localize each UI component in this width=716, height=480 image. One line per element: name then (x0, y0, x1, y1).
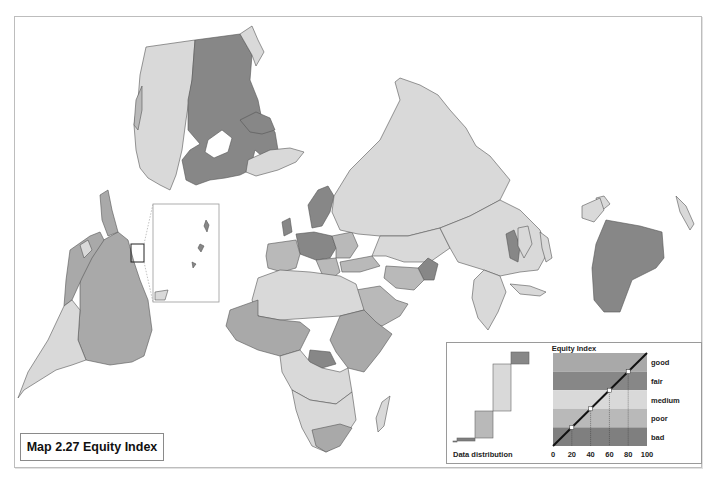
legend-band-label-poor: poor (651, 414, 668, 423)
distribution-bar-poor (475, 411, 493, 438)
distribution-bar-none (453, 441, 457, 442)
axis-tick-80: 80 (624, 450, 632, 459)
map-title-box: Map 2.27 Equity Index (20, 433, 164, 461)
region-indonesia[interactable] (510, 284, 546, 296)
legend-band-label-bad: bad (651, 433, 665, 442)
distribution-bar-fair (511, 352, 529, 364)
south-america (18, 190, 152, 398)
legend-band-fair (553, 372, 647, 391)
axis-tick-40: 40 (586, 450, 594, 459)
axis-tick-60: 60 (605, 450, 613, 459)
region-uk[interactable] (282, 218, 292, 236)
legend-band-label-good: good (651, 358, 670, 367)
axis-tick-0: 0 (551, 450, 555, 459)
region-australia[interactable] (592, 220, 664, 312)
legend-panel: Equity Index goodfairmediumpoorbad020406… (446, 342, 702, 464)
axis-tick-100: 100 (641, 450, 654, 459)
distribution-label: Data distribution (453, 450, 513, 459)
distribution-bar-bad (457, 438, 475, 441)
axis-tick-20: 20 (568, 450, 576, 459)
region-turkey[interactable] (340, 256, 380, 272)
region-argentina[interactable] (18, 300, 86, 398)
distribution-bar-medium (493, 364, 511, 411)
legend-band-poor (553, 409, 647, 428)
legend-band-bad (553, 427, 647, 446)
break-marker-80 (626, 370, 630, 374)
legend-graphic: goodfairmediumpoorbad020406080100 (447, 343, 701, 463)
legend-band-label-medium: medium (651, 396, 680, 405)
region-madagascar[interactable] (376, 396, 390, 432)
asia (332, 78, 610, 330)
region-western-europe[interactable] (296, 232, 336, 260)
map-title: Map 2.27 Equity Index (27, 440, 158, 454)
region-france-iberia[interactable] (266, 240, 300, 272)
legend-band-good (553, 353, 647, 372)
region-north-africa[interactable] (252, 270, 364, 320)
region-scandinavia[interactable] (308, 186, 334, 228)
legend-band-label-fair: fair (651, 377, 663, 386)
region-india[interactable] (472, 270, 506, 330)
break-marker-20 (570, 425, 574, 429)
region-central-america[interactable] (100, 190, 118, 236)
oceania (592, 196, 694, 312)
region-new-guinea[interactable] (582, 198, 604, 222)
region-iran[interactable] (384, 266, 424, 290)
inset-map-box (153, 204, 219, 302)
break-marker-60 (607, 388, 611, 392)
break-marker-40 (589, 407, 593, 411)
north-america (134, 26, 304, 190)
caribbean-inset (131, 204, 219, 302)
region-eastern-europe[interactable] (332, 232, 358, 258)
region-new-zealand[interactable] (676, 196, 694, 230)
